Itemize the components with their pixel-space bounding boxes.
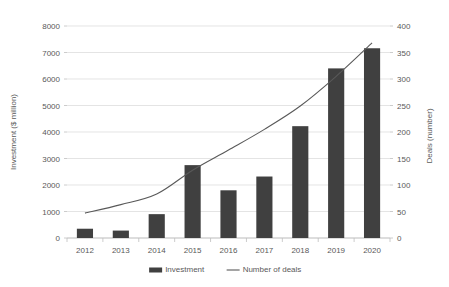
bar — [328, 68, 344, 238]
y-axis-right-tick-label: 300 — [397, 75, 411, 84]
x-axis-tick-label: 2015 — [184, 246, 202, 255]
y-axis-left-tick-label: 3000 — [42, 155, 60, 164]
y-axis-left: 010002000300040005000600070008000 — [42, 22, 67, 243]
y-axis-left-tick-label: 8000 — [42, 22, 60, 31]
legend-label: Investment — [165, 265, 205, 274]
combo-chart: 010002000300040005000600070008000 050100… — [0, 0, 449, 287]
x-axis-tick-label: 2019 — [327, 246, 345, 255]
y-axis-left-tick-label: 0 — [56, 234, 61, 243]
y-axis-right-tick-label: 400 — [397, 22, 411, 31]
bar-series-investment — [77, 48, 380, 238]
y-axis-right-tick-label: 150 — [397, 155, 411, 164]
bar — [364, 48, 380, 238]
y-axis-left-tick-label: 6000 — [42, 75, 60, 84]
y-axis-right-tick-label: 0 — [397, 234, 402, 243]
x-axis-tick-label: 2018 — [291, 246, 309, 255]
bar — [113, 231, 129, 238]
y-axis-right-tick-label: 100 — [397, 181, 411, 190]
y-axis-left-title: Investment ($ million) — [9, 94, 18, 170]
y-axis-right: 050100150200250300350400 — [390, 22, 411, 243]
x-axis-tick-label: 2013 — [112, 246, 130, 255]
x-axis: 201220132014201520162017201820192020 — [67, 238, 390, 255]
legend: InvestmentNumber of deals — [149, 265, 301, 274]
legend-label: Number of deals — [243, 265, 302, 274]
bar — [292, 126, 308, 238]
bar — [77, 229, 93, 238]
y-axis-right-tick-label: 200 — [397, 128, 411, 137]
y-axis-left-tick-label: 2000 — [42, 181, 60, 190]
y-axis-left-tick-label: 4000 — [42, 128, 60, 137]
bar — [256, 177, 272, 238]
y-axis-right-tick-label: 350 — [397, 49, 411, 58]
y-axis-left-tick-label: 7000 — [42, 49, 60, 58]
bar — [220, 190, 236, 238]
x-axis-tick-label: 2014 — [148, 246, 166, 255]
bar — [149, 214, 165, 238]
y-axis-right-title: Deals (number) — [425, 108, 434, 163]
bar — [185, 165, 201, 238]
y-axis-right-tick-label: 250 — [397, 102, 411, 111]
y-axis-left-tick-label: 5000 — [42, 102, 60, 111]
legend-swatch-investment — [149, 268, 162, 273]
x-axis-tick-label: 2017 — [255, 246, 273, 255]
y-axis-left-tick-label: 1000 — [42, 208, 60, 217]
y-axis-right-tick-label: 50 — [397, 208, 406, 217]
chart-container: 010002000300040005000600070008000 050100… — [0, 0, 449, 287]
x-axis-tick-label: 2012 — [76, 246, 94, 255]
x-axis-tick-label: 2016 — [220, 246, 238, 255]
x-axis-tick-label: 2020 — [363, 246, 381, 255]
